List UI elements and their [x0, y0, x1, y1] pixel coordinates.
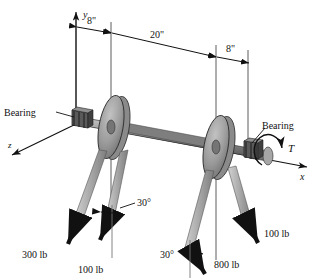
bearing-left-label: Bearing	[4, 107, 36, 118]
force-800-arrow	[190, 248, 205, 274]
bearing-left-leader	[56, 112, 74, 117]
dim-left-8-label: 8"	[87, 15, 96, 26]
belt-left-outer	[74, 150, 107, 222]
force-300-label: 300 lb	[22, 249, 47, 260]
belt-right-inner	[184, 170, 214, 254]
shaft-pulley-diagram: y x z 8" 20" 8" Bearing Bearing T 30° 30…	[0, 0, 318, 280]
z-axis-label: z	[7, 140, 12, 150]
dim-left-8-line	[77, 27, 111, 33]
dim-right-8-line	[217, 57, 249, 63]
force-100-right-label: 100 lb	[264, 228, 289, 239]
force-800-label: 800 lb	[214, 259, 239, 270]
belt-left-inner	[106, 150, 128, 219]
dim-middle-20-label: 20"	[150, 29, 164, 40]
figure-canvas: y x z 8" 20" 8" Bearing Bearing T 30° 30…	[0, 0, 318, 280]
torque-label: T	[288, 142, 295, 154]
z-axis-line	[12, 124, 76, 155]
angle-right-label: 30°	[160, 249, 174, 260]
force-100-left-label: 100 lb	[78, 264, 103, 275]
angle-left-leader	[120, 203, 135, 208]
angle-left-label: 30°	[137, 197, 151, 208]
force-300-arrow	[68, 215, 80, 244]
dim-right-8-label: 8"	[226, 43, 235, 54]
bearing-right-label: Bearing	[262, 120, 294, 131]
angle-reference-lines	[112, 205, 190, 278]
bearing-left-block	[72, 107, 93, 128]
belt-right-outer	[228, 166, 252, 225]
x-axis-label: x	[299, 171, 305, 182]
